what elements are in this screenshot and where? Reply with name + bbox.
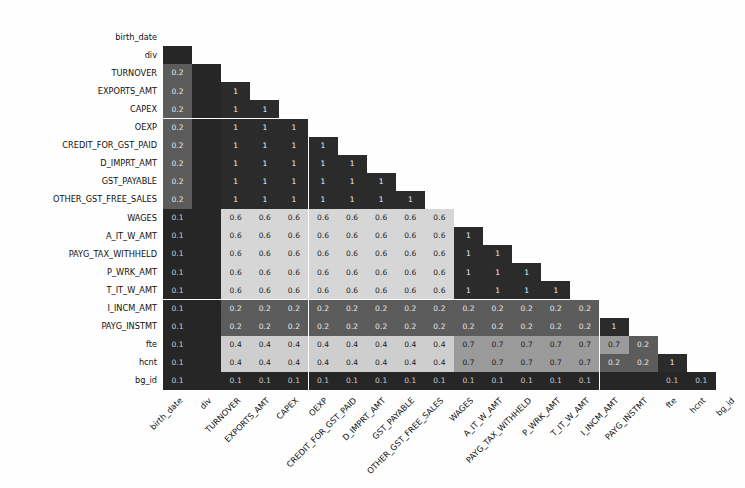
correlation-heatmap-figure: 0.20.210.2110.21110.211110.2111110.21111… [0, 0, 745, 488]
x-axis-tick-labels: birth_datedivTURNOVEREXPORTS_AMTCAPEXOEX… [0, 0, 745, 488]
